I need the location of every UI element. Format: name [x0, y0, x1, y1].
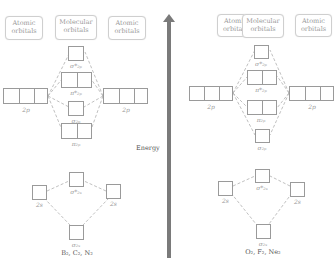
atomic-orbital-2p-left	[189, 86, 233, 101]
label-2s: 2s	[32, 201, 47, 208]
label-pi-star-2p: π*₂ₚ	[66, 89, 86, 96]
header-atomic-orbitals-right-2: Atomic orbitals	[295, 14, 332, 37]
label-2p: 2p	[118, 106, 134, 113]
header-text: Atomic	[110, 19, 144, 27]
atomic-orbital-2s-left	[32, 185, 47, 200]
label-sigma-2s: σ₂ₛ	[253, 240, 273, 247]
label-sigma-star-2s: σ*₂ₛ	[252, 184, 272, 191]
mo-sigma-star-2p	[254, 45, 269, 59]
mo-pi-star-2p	[61, 72, 92, 88]
header-text: Molecular	[244, 17, 282, 25]
header-text: orbitals	[110, 27, 144, 35]
label-sigma-star-2p: σ*₂ₚ	[251, 60, 271, 67]
molecule-label-left: B₂, C₂, N₂	[55, 249, 99, 257]
mo-pi-2p	[247, 100, 277, 115]
energy-axis	[167, 20, 171, 258]
mo-sigma-star-2s	[255, 169, 270, 183]
mo-sigma-star-2s	[69, 172, 84, 187]
header-molecular-orbitals-right: Molecular orbitals	[242, 14, 284, 38]
label-pi-star-2p: π*₂ₚ	[251, 86, 271, 93]
energy-label: Energy	[136, 144, 160, 152]
atomic-orbital-2s-right	[290, 182, 305, 197]
mo-sigma-star-2p	[68, 46, 84, 61]
label-pi-2p: π₂ₚ	[66, 140, 86, 147]
atomic-orbital-2p-right	[289, 86, 334, 101]
molecule-label-right: O₂, F₂, Ne₂	[238, 248, 288, 256]
label-sigma-2s: σ₂ₛ	[66, 241, 86, 248]
header-text: orbitals	[57, 26, 95, 34]
label-2s: 2s	[106, 200, 121, 207]
mo-sigma-2s	[69, 225, 84, 240]
atomic-orbital-2s-left	[218, 181, 233, 196]
header-text: orbitals	[244, 25, 282, 33]
mo-pi-2p	[61, 123, 92, 139]
mo-sigma-2s	[256, 224, 271, 239]
label-sigma-star-2p: σ*₂ₚ	[66, 62, 86, 69]
header-text: orbitals	[7, 27, 41, 35]
label-2p: 2p	[304, 103, 320, 110]
label-2p: 2p	[203, 103, 219, 110]
label-2s: 2s	[290, 198, 305, 205]
header-molecular-orbitals-left: Molecular orbitals	[55, 15, 97, 40]
mo-sigma-2p	[68, 101, 84, 116]
mo-sigma-2p	[255, 129, 270, 143]
atomic-orbital-2p-right	[103, 88, 148, 104]
mo-pi-star-2p	[247, 70, 277, 85]
atomic-orbital-2p-left	[3, 88, 48, 104]
atomic-orbital-2s-right	[106, 184, 121, 199]
label-sigma-star-2s: σ*₂ₛ	[66, 188, 86, 195]
header-atomic-orbitals-left-1: Atomic orbitals	[5, 16, 43, 40]
label-sigma-2p: σ₂ₚ	[252, 144, 272, 151]
header-text: orbitals	[297, 25, 330, 33]
header-atomic-orbitals-left-2: Atomic orbitals	[108, 16, 146, 40]
arrow-up-icon	[163, 14, 175, 22]
label-2p: 2p	[18, 106, 34, 113]
header-text: Atomic	[7, 19, 41, 27]
header-text: Atomic	[297, 17, 330, 25]
header-text: Molecular	[57, 18, 95, 26]
label-2s: 2s	[218, 197, 233, 204]
label-pi-2p: π₂ₚ	[251, 116, 271, 123]
